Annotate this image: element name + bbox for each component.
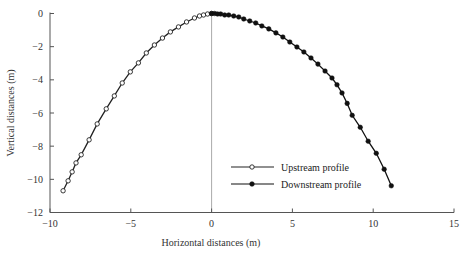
open-circle-marker-icon <box>184 20 188 24</box>
legend: Upstream profile Downstream profile <box>231 162 362 190</box>
legend-label-downstream: Downstream profile <box>281 179 362 190</box>
filled-circle-marker-icon <box>274 31 279 36</box>
filled-circle-marker-icon <box>335 83 340 88</box>
open-circle-marker-icon <box>104 107 108 111</box>
open-circle-marker-icon <box>176 25 180 29</box>
filled-circle-marker-icon <box>281 35 286 40</box>
filled-circle-marker-icon <box>340 91 345 96</box>
filled-circle-marker-icon <box>241 17 246 22</box>
filled-circle-marker-icon <box>260 24 265 29</box>
open-circle-marker-icon <box>61 189 65 193</box>
open-circle-marker-icon <box>112 94 116 98</box>
filled-circle-marker-icon <box>366 139 371 144</box>
x-tick-label: −5 <box>125 218 136 229</box>
open-circle-marker-icon <box>168 30 172 34</box>
filled-circle-marker-icon <box>323 69 328 74</box>
y-tick-label: −6 <box>32 108 43 119</box>
x-tick-label: −10 <box>42 218 58 229</box>
open-circle-marker-icon <box>192 16 196 20</box>
filled-circle-marker-icon <box>382 167 387 172</box>
filled-circle-marker-icon <box>250 182 255 187</box>
y-tick-label: −10 <box>27 174 43 185</box>
filled-circle-marker-icon <box>288 40 293 45</box>
open-circle-marker-icon <box>160 36 164 40</box>
x-tick-label: 0 <box>209 218 214 229</box>
filled-circle-marker-icon <box>231 14 236 19</box>
x-tick-label: 15 <box>449 218 459 229</box>
open-circle-marker-icon <box>250 165 254 169</box>
open-circle-marker-icon <box>87 138 91 142</box>
series-line <box>63 14 212 191</box>
y-tick-label: −4 <box>32 74 43 85</box>
y-tick-label: −8 <box>32 141 43 152</box>
open-circle-marker-icon <box>144 51 148 55</box>
open-circle-marker-icon <box>128 70 132 74</box>
y-axis: 0−2−4−6−8−10−12 <box>27 8 54 218</box>
filled-circle-marker-icon <box>253 21 258 26</box>
filled-circle-marker-icon <box>330 76 335 81</box>
open-circle-marker-icon <box>136 61 140 65</box>
legend-item-upstream: Upstream profile <box>231 162 350 173</box>
open-circle-marker-icon <box>79 153 83 157</box>
legend-label-upstream: Upstream profile <box>281 162 350 173</box>
x-tick-label: 10 <box>368 218 378 229</box>
y-tick-label: −2 <box>32 41 43 52</box>
y-tick-label: 0 <box>38 8 43 19</box>
filled-circle-marker-icon <box>350 113 355 118</box>
filled-circle-marker-icon <box>295 45 300 50</box>
filled-circle-marker-icon <box>267 27 272 32</box>
filled-circle-marker-icon <box>345 101 350 106</box>
open-circle-marker-icon <box>70 170 74 174</box>
x-axis-title: Horizontal distances (m) <box>162 237 261 249</box>
series-upstream <box>61 11 214 193</box>
filled-circle-marker-icon <box>236 15 241 20</box>
open-circle-marker-icon <box>152 43 156 47</box>
filled-circle-marker-icon <box>226 13 231 18</box>
filled-circle-marker-icon <box>316 62 321 67</box>
open-circle-marker-icon <box>74 161 78 165</box>
filled-circle-marker-icon <box>389 184 394 189</box>
filled-circle-marker-icon <box>309 56 314 61</box>
filled-circle-marker-icon <box>374 151 379 156</box>
y-tick-label: −12 <box>27 207 43 218</box>
series-line <box>212 14 392 186</box>
x-axis: −10−5051015 <box>42 209 459 229</box>
open-circle-marker-icon <box>120 81 124 85</box>
legend-item-downstream: Downstream profile <box>231 179 362 190</box>
open-circle-marker-icon <box>95 122 99 126</box>
open-circle-marker-icon <box>66 179 70 183</box>
filled-circle-marker-icon <box>302 50 307 55</box>
profile-chart: 0−2−4−6−8−10−12 −10−5051015 Horizontal d… <box>0 0 473 265</box>
filled-circle-marker-icon <box>247 19 252 24</box>
y-axis-title: Vertical distances (m) <box>5 69 17 156</box>
filled-circle-marker-icon <box>358 125 363 130</box>
x-tick-label: 5 <box>290 218 295 229</box>
